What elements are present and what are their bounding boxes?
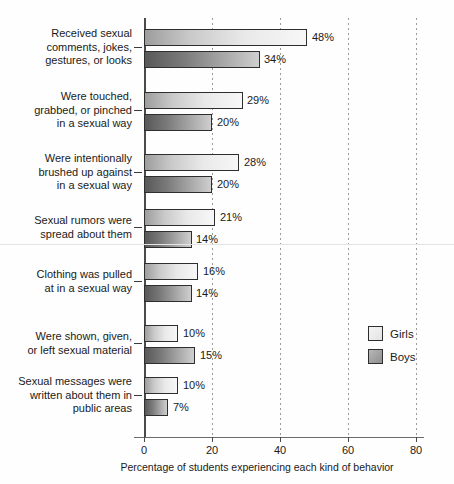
legend: Girls Boys [368, 322, 416, 368]
bar-value-girls-5: 10% [183, 325, 205, 342]
category-label-4: Clothing was pulled at in a sexual way [14, 268, 132, 295]
x-tick-label-40: 40 [274, 444, 286, 456]
bar-boys-3 [144, 231, 192, 248]
legend-swatch-boys-icon [368, 349, 383, 364]
bar-value-girls-3: 21% [220, 209, 242, 226]
bar-value-girls-4: 16% [203, 263, 225, 280]
category-connector-1 [134, 110, 142, 111]
category-label-0: Received sexual comments, jokes, gesture… [14, 27, 132, 68]
bar-boys-0 [144, 51, 260, 68]
category-label-3: Sexual rumors were spread about them [14, 214, 132, 241]
legend-swatch-girls-icon [368, 326, 383, 341]
legend-item-boys: Boys [368, 345, 416, 368]
bar-girls-3 [144, 209, 215, 226]
bar-value-boys-1: 20% [217, 114, 239, 131]
bar-boys-4 [144, 285, 192, 302]
bar-girls-5 [144, 325, 178, 342]
tick-mark-0 [144, 437, 145, 442]
x-tick-label-60: 60 [342, 444, 354, 456]
category-label-1: Were touched, grabbed, or pinched in a s… [14, 90, 132, 131]
tick-mark-80 [416, 437, 417, 442]
category-connector-2 [134, 172, 142, 173]
y-axis-line [144, 18, 146, 437]
bar-boys-6 [144, 399, 168, 416]
x-axis-line [134, 437, 424, 438]
gridline-40 [280, 18, 281, 437]
bar-value-girls-6: 10% [183, 377, 205, 394]
bar-boys-2 [144, 176, 212, 193]
category-connector-4 [134, 281, 142, 282]
x-axis-title: Percentage of students experiencing each… [60, 461, 393, 473]
bar-value-boys-0: 34% [264, 51, 286, 68]
category-connector-5 [134, 343, 142, 344]
bar-value-boys-5: 15% [200, 347, 222, 364]
gridline-20 [212, 18, 213, 437]
bar-boys-5 [144, 347, 195, 364]
bar-girls-2 [144, 154, 239, 171]
category-connector-3 [134, 227, 142, 228]
bar-girls-4 [144, 263, 198, 280]
bar-chart: 0 20 40 60 80 Received sexual comments, … [0, 0, 454, 484]
bar-value-boys-6: 7% [173, 399, 189, 416]
gridline-60 [348, 18, 349, 437]
x-axis-title-wrap: Percentage of students experiencing each… [0, 461, 454, 473]
x-tick-label-20: 20 [206, 444, 218, 456]
page-scan-artifact [0, 244, 454, 245]
x-tick-label-80: 80 [410, 444, 422, 456]
bar-girls-6 [144, 377, 178, 394]
category-connector-0 [134, 47, 142, 48]
category-label-5: Were shown, given, or left sexual materi… [4, 330, 132, 357]
category-connector-6 [134, 395, 142, 396]
bar-girls-1 [144, 92, 243, 109]
tick-mark-20 [212, 437, 213, 442]
bar-value-boys-4: 14% [196, 285, 218, 302]
bar-boys-1 [144, 114, 212, 131]
legend-label-girls: Girls [390, 328, 414, 340]
category-label-6: Sexual messages were written about them … [4, 375, 132, 416]
bar-girls-0 [144, 29, 307, 46]
tick-mark-40 [280, 437, 281, 442]
x-tick-label-0: 0 [141, 444, 147, 456]
bar-value-boys-3: 14% [196, 231, 218, 248]
bar-value-girls-1: 29% [247, 92, 269, 109]
bar-value-boys-2: 20% [217, 176, 239, 193]
gridline-80 [416, 18, 417, 437]
tick-mark-60 [348, 437, 349, 442]
bar-value-girls-2: 28% [244, 154, 266, 171]
category-label-2: Were intentionally brushed up against in… [14, 152, 132, 193]
legend-label-boys: Boys [390, 351, 416, 363]
bar-value-girls-0: 48% [312, 29, 334, 46]
legend-item-girls: Girls [368, 322, 416, 345]
